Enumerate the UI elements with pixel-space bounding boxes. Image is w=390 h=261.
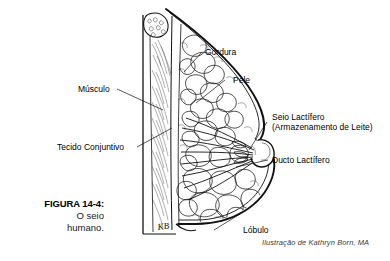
figure-caption-line1: O seio: [4, 210, 104, 222]
figure-caption-line2: humano.: [4, 222, 104, 234]
label-pele: Pele: [233, 75, 250, 85]
rib-cross-section: [144, 13, 169, 37]
figure-caption: FIGURA 14-4: O seio humano.: [4, 198, 104, 234]
figure-caption-label: FIGURA 14-4:: [4, 198, 104, 210]
label-gordura: Gordura: [205, 47, 236, 57]
leader-gordura: [184, 52, 202, 72]
breast-outline-group: KB: [117, 9, 274, 234]
label-musculo: Músculo: [78, 84, 110, 94]
skin-inner-contour: [170, 13, 269, 220]
label-tecido-conjuntivo: Tecido Conjuntivo: [57, 142, 124, 152]
artist-signature: KB: [156, 220, 170, 232]
label-lobulo: Lóbulo: [243, 225, 269, 235]
muscle-layer-boundary: [171, 16, 172, 230]
illustration-credit: Ilustração de Kathryn Born, MA: [262, 238, 369, 247]
leader-musculo: [117, 89, 163, 110]
figure-page: KB Gordura Pele Músculo Tecido Conjuntiv…: [0, 0, 390, 261]
label-seio-lactifero-line1: Seio Lactífero: [272, 112, 324, 122]
leader-tecido-conjuntivo: [137, 128, 172, 147]
label-seio-lactifero: Seio Lactífero (Armazenamento de Leite): [272, 112, 373, 132]
glandular-tissue-texture: [177, 35, 261, 229]
label-seio-lactifero-line2: (Armazenamento de Leite): [272, 122, 373, 132]
label-ducto-lactifero: Ducto Lactífero: [272, 155, 330, 165]
lactiferous-ducts: [180, 118, 254, 200]
